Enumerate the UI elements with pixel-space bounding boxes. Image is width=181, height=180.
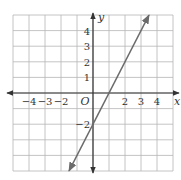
x-tick-label: −4 [22, 96, 37, 107]
x-tick-label: 3 [138, 96, 144, 107]
y-tick-label: 2 [84, 57, 90, 68]
x-axis-label: x [174, 95, 181, 108]
y-tick-label: −2 [75, 119, 90, 130]
y-tick-label: 3 [84, 41, 90, 52]
y-axis-label: y [97, 11, 105, 24]
x-tick-label: −3 [38, 96, 53, 107]
y-tick-label: 4 [84, 26, 90, 37]
x-tick-label: 2 [122, 96, 128, 107]
x-tick-label: 4 [154, 96, 160, 107]
y-tick-label: 1 [84, 72, 90, 83]
x-tick-label: −2 [54, 96, 69, 107]
origin-label: O [80, 95, 89, 108]
axes [7, 13, 179, 173]
coordinate-plane: −4−3−22344321−2Oxy [0, 0, 181, 180]
